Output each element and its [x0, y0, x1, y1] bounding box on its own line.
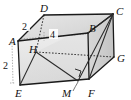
dim-label-AE: 2: [3, 60, 8, 71]
vertex-label-E: E: [14, 87, 22, 99]
cuboid-diagram-svg: A B C D E F G H M 2 4 2: [0, 0, 131, 100]
vertex-label-D: D: [39, 2, 48, 14]
vertex-label-A: A: [8, 35, 16, 47]
vertex-label-M: M: [61, 87, 72, 99]
leader-line-M: [73, 82, 78, 91]
vertex-label-G: G: [117, 52, 125, 64]
vertex-label-C: C: [116, 5, 124, 17]
dim-label-AD: 2: [22, 21, 27, 32]
dim-line-AE: [12, 43, 13, 83]
vertex-label-H: H: [28, 43, 38, 55]
geometry-figure: A B C D E F G H M 2 4 2: [0, 0, 131, 100]
vertex-label-F: F: [87, 87, 95, 99]
vertex-label-B: B: [89, 22, 96, 34]
dim-label-AB: 4: [50, 29, 55, 40]
